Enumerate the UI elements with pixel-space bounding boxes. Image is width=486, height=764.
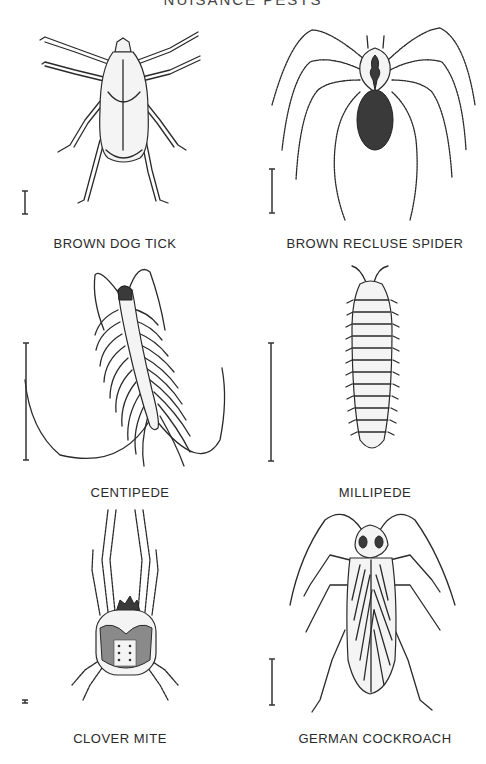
specimen-label: GERMAN COCKROACH [290, 731, 460, 746]
scale-bar [0, 0, 486, 764]
